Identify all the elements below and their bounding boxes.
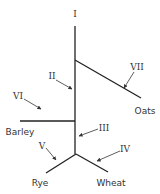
arrow-III — [79, 129, 98, 136]
arrow-IV — [97, 151, 120, 161]
branch-label-V: V — [38, 141, 46, 151]
branch-label-III: III — [99, 123, 110, 133]
taxon-label-barley: Barley — [6, 127, 35, 137]
taxon-label-rye: Rye — [32, 178, 49, 188]
wheat-edge — [76, 154, 108, 172]
taxon-label-wheat: Wheat — [96, 178, 126, 188]
taxon-label-oats: Oats — [135, 106, 156, 116]
branch-label-I: I — [73, 9, 77, 19]
branch-label-VII: VII — [129, 62, 144, 72]
arrow-V — [46, 148, 56, 160]
arrow-VI — [24, 99, 41, 109]
branch-label-IV: IV — [120, 144, 131, 154]
arrow-VII — [124, 72, 134, 88]
rye-edge — [46, 154, 76, 173]
tree-diagram: I II III IV V VI VII Oats Barley Rye Whe… — [0, 0, 160, 194]
branch-label-VI: VI — [12, 91, 23, 101]
arrow-II — [56, 80, 72, 89]
branch-label-II: II — [48, 71, 56, 81]
